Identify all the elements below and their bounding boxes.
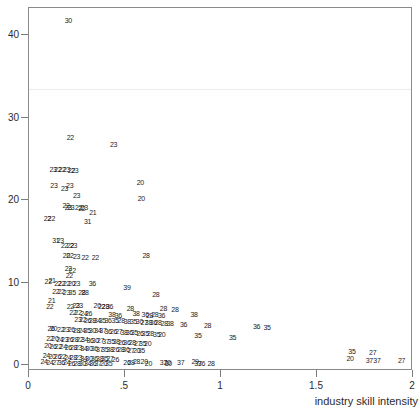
scan-artifact-line [29,89,411,90]
data-point-label: 23 [70,241,77,248]
y-axis-tick [21,117,28,118]
plot-area: 3022232322222322232323232023202223232222… [28,7,412,370]
data-point-label: 23 [110,140,117,147]
y-axis-tick-label: 20 [2,194,19,205]
y-axis-tick [21,364,28,365]
data-point-label: 37 [373,357,380,364]
data-point-label: 36 [198,359,205,366]
data-point-label: 38 [191,310,198,317]
x-axis-tick-label: .5 [120,380,128,391]
data-point-label: 22 [92,253,99,260]
data-point-label: 28 [207,359,214,366]
data-point-label: 38 [133,310,140,317]
data-point-label: 37 [366,357,373,364]
x-axis-tick [220,370,221,377]
scatter-plot-figure: 3022232322222322232323232023202223232222… [0,0,420,412]
data-point-label: 20 [137,178,144,185]
data-point-label: 30 [165,360,172,367]
data-point-label: 35 [138,347,145,354]
data-point-label: 23 [66,182,73,189]
data-point-label: 26 [112,356,119,363]
data-point-label: 28 [133,357,140,364]
data-point-label: 36 [106,303,113,310]
data-point-label: 23 [73,253,80,260]
y-axis-tick [21,34,28,35]
data-point-label: 23 [71,167,78,174]
y-axis-tick-label: 40 [2,29,19,40]
data-point-label: 35 [194,332,201,339]
data-point-label: 20 [158,330,165,337]
x-axis-tick [124,370,125,377]
data-point-label: 22 [81,253,88,260]
data-point-label: 23 [73,280,80,287]
data-point-label: 20 [144,339,151,346]
x-axis-title: industry skill intensity [315,395,418,407]
data-point-label: 39 [123,284,130,291]
y-axis-tick-label: 30 [2,111,19,122]
data-point-label: 35 [229,333,236,340]
data-point-label: 28 [152,291,159,298]
y-axis-tick-label: 0 [2,359,19,370]
data-point-label: 22 [46,302,53,309]
data-point-label: 28 [204,322,211,329]
data-point-label: 35 [263,324,270,331]
data-point-label: 23 [67,204,74,211]
data-point-label: 38 [167,319,174,326]
y-axis-tick-label: 10 [2,276,19,287]
data-point-label: 30 [65,17,72,24]
data-point-label: 28 [171,305,178,312]
data-point-label: 28 [143,252,150,259]
data-point-label: 21 [89,208,96,215]
data-point-label: 37 [177,358,184,365]
data-point-label: 20 [138,195,145,202]
x-axis-tick [28,370,29,377]
data-point-label: 23 [50,182,57,189]
data-point-label: 20 [145,359,152,366]
x-axis-tick [412,370,413,377]
data-point-label: 27 [398,357,405,364]
data-point-label: 36 [180,320,187,327]
data-point-label: 22 [48,215,55,222]
data-point-label: 23 [76,301,83,308]
x-axis-tick-label: 0 [25,380,31,391]
x-axis-tick [316,370,317,377]
data-point-label: 35 [105,360,112,367]
data-point-label: 28 [81,289,88,296]
data-point-label: 36 [158,311,165,318]
x-axis-tick-label: 1 [217,380,223,391]
data-point-label: 31 [84,218,91,225]
data-point-label: 22 [66,272,73,279]
data-point-label: 36 [253,323,260,330]
y-axis-tick [21,282,28,283]
data-point-label: 36 [89,280,96,287]
data-point-label: 22 [67,134,74,141]
data-point-label: 35 [69,288,76,295]
data-point-label: 20 [346,354,353,361]
x-axis-tick-label: 1.5 [309,380,323,391]
data-point-label: 23 [81,204,88,211]
x-axis-tick-label: 2 [409,380,415,391]
data-point-label: 23 [73,192,80,199]
data-point-label: 27 [369,348,376,355]
y-axis-tick [21,199,28,200]
